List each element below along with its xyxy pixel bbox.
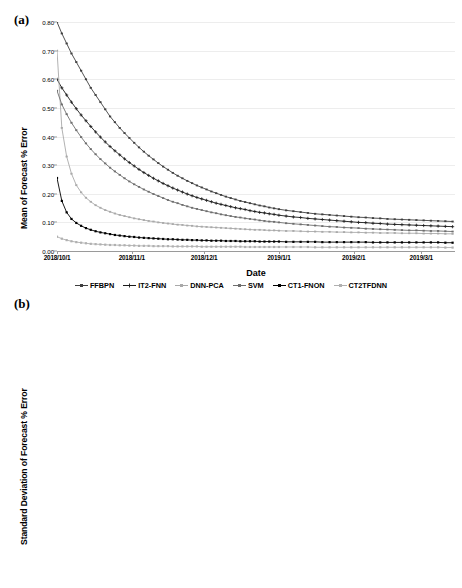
data-point-marker — [99, 158, 101, 160]
legend-item-svm[interactable]: SVM — [233, 281, 264, 290]
data-point-marker — [138, 146, 140, 148]
data-point-marker — [152, 193, 154, 195]
data-point-marker — [268, 207, 270, 209]
data-point-marker — [196, 185, 198, 187]
data-point-marker — [210, 200, 213, 203]
data-point-marker — [423, 230, 425, 232]
data-point-marker — [57, 50, 58, 52]
data-point-marker — [415, 246, 417, 248]
data-point-marker — [220, 246, 222, 248]
data-point-marker — [259, 246, 261, 248]
data-point-marker — [430, 246, 432, 248]
figure-container: (a) Mean of Forecast % Error 0.000.100.2… — [0, 0, 462, 588]
data-point-marker — [167, 223, 169, 225]
data-point-marker — [138, 186, 140, 188]
data-point-marker — [350, 231, 352, 233]
data-point-marker — [314, 213, 316, 215]
data-point-marker — [401, 241, 403, 243]
legend-item-ffbpn[interactable]: FFBPN — [75, 281, 114, 290]
data-point-marker — [314, 241, 316, 243]
data-point-marker — [119, 244, 121, 246]
data-point-marker — [61, 200, 63, 202]
legend-item-ct2tfdnn[interactable]: CT2TFDNN — [334, 281, 388, 290]
data-point-marker — [94, 230, 96, 232]
data-point-marker — [181, 245, 183, 247]
data-point-marker — [234, 246, 236, 248]
data-point-marker — [268, 246, 270, 248]
data-point-marker — [336, 226, 338, 228]
data-point-marker — [343, 246, 345, 248]
data-point-marker — [364, 221, 367, 224]
data-point-marker — [138, 245, 140, 247]
panel-a-plot-area: 0.000.100.200.300.400.500.600.700.802018… — [57, 22, 455, 251]
data-point-marker — [66, 113, 68, 115]
data-point-marker — [186, 239, 188, 241]
data-point-marker — [292, 246, 294, 248]
data-point-marker — [75, 61, 77, 63]
data-point-marker — [201, 246, 203, 248]
data-point-marker — [401, 246, 403, 248]
data-point-marker — [90, 229, 92, 231]
data-point-marker — [90, 201, 92, 203]
data-point-marker — [234, 206, 237, 209]
data-point-marker — [104, 163, 106, 165]
data-point-marker — [244, 217, 246, 219]
legend-item-ct1-fnon[interactable]: CT1-FNON — [273, 281, 325, 290]
data-point-marker — [177, 224, 179, 226]
data-point-marker — [451, 225, 454, 228]
data-point-marker — [394, 232, 396, 234]
data-point-marker — [181, 224, 183, 226]
data-point-marker — [138, 218, 140, 220]
data-point-marker — [307, 231, 309, 233]
data-point-marker — [225, 214, 227, 216]
data-point-marker — [263, 220, 265, 222]
data-point-marker — [177, 245, 179, 247]
data-point-marker — [210, 211, 212, 213]
data-point-marker — [230, 215, 232, 217]
data-point-marker — [393, 223, 396, 226]
y-tick-label: 0.80 — [42, 19, 54, 26]
data-point-marker — [157, 179, 160, 182]
data-point-marker — [300, 241, 302, 243]
data-point-marker — [379, 241, 381, 243]
data-point-marker — [314, 231, 316, 233]
data-point-marker — [444, 230, 446, 232]
data-point-marker — [210, 246, 212, 248]
data-point-marker — [273, 246, 275, 248]
data-point-marker — [248, 209, 251, 212]
data-point-marker — [230, 240, 232, 242]
legend-item-it2-fnn[interactable]: IT2-FNN — [123, 281, 166, 290]
legend-swatch-icon — [123, 282, 136, 289]
data-point-marker — [259, 219, 261, 221]
data-point-marker — [437, 233, 439, 235]
data-point-marker — [157, 221, 159, 223]
series-it2-fnn — [57, 78, 454, 229]
data-point-marker — [196, 225, 198, 227]
data-point-marker — [70, 173, 72, 175]
data-point-marker — [148, 155, 150, 157]
data-point-marker — [191, 182, 193, 184]
data-point-marker — [314, 246, 316, 248]
data-point-marker — [394, 241, 396, 243]
data-point-marker — [215, 202, 218, 205]
data-point-marker — [336, 241, 338, 243]
data-point-marker — [249, 202, 251, 204]
data-point-marker — [285, 241, 287, 243]
data-point-marker — [186, 245, 188, 247]
data-point-marker — [357, 231, 359, 233]
data-point-marker — [230, 246, 232, 248]
data-point-marker — [61, 104, 63, 106]
data-point-marker — [104, 209, 106, 211]
data-point-marker — [259, 205, 261, 207]
chart-panel-a: (a) Mean of Forecast % Error 0.000.100.2… — [0, 4, 462, 294]
legend-item-dnn-pca[interactable]: DNN-PCA — [175, 281, 224, 290]
data-point-marker — [167, 245, 169, 247]
data-point-marker — [430, 230, 432, 232]
data-point-marker — [328, 214, 330, 216]
data-point-marker — [386, 229, 388, 231]
data-point-marker — [167, 238, 169, 240]
data-point-marker — [249, 229, 251, 231]
y-tick-label: 0.70 — [42, 47, 54, 54]
data-point-marker — [273, 240, 275, 242]
data-point-marker — [249, 246, 251, 248]
